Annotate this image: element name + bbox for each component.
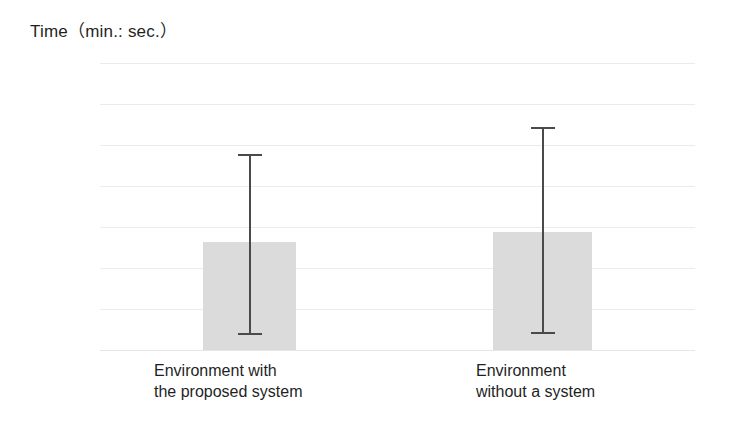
category-label-no-system: Environment without a system <box>476 360 696 402</box>
error-stem <box>542 127 544 334</box>
bar-chart: Time（min.: sec.） 28:48 26:24 24:00 21:36… <box>0 0 730 428</box>
error-stem <box>249 154 251 335</box>
plot-area: 28:48 26:24 24:00 21:36 19:12 16:48 14:2… <box>100 55 695 350</box>
error-bar-proposed-system <box>203 154 296 335</box>
gridline-14-24 <box>100 309 695 310</box>
error-cap-bottom <box>531 332 555 334</box>
error-cap-bottom <box>238 333 262 335</box>
gridline-16-48 <box>100 268 695 269</box>
gridline-26-24 <box>100 104 695 105</box>
category-label-proposed-system: Environment with the proposed system <box>154 360 384 402</box>
gridline-28-48 <box>100 63 695 64</box>
gridline-12-00 <box>100 350 695 351</box>
gridline-19-12 <box>100 227 695 228</box>
gridline-24-00 <box>100 145 695 146</box>
axis-title: Time（min.: sec.） <box>30 17 177 42</box>
gridline-21-36 <box>100 186 695 187</box>
error-bar-no-system <box>493 127 592 334</box>
